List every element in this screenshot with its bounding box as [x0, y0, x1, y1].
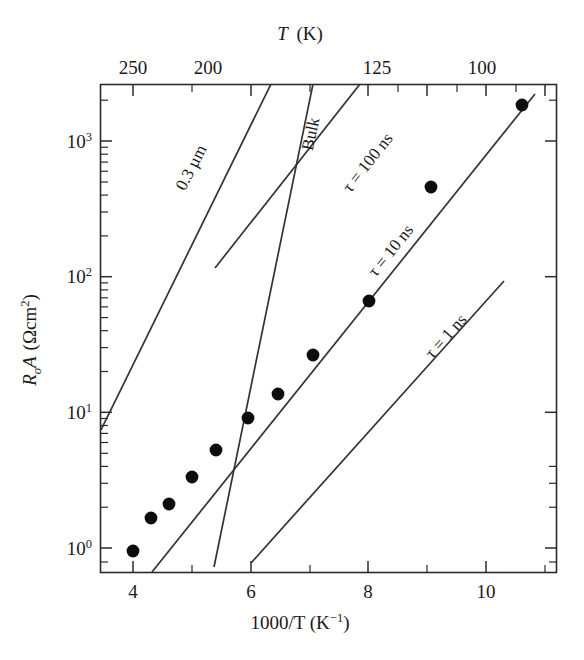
y-axis-major-ticks	[101, 141, 113, 548]
data-point	[145, 512, 158, 525]
svg-text:1000/T (K−1): 1000/T (K−1)	[251, 611, 350, 634]
right-axis-ticks	[545, 100, 557, 562]
x-axis-title-superscript: −1	[330, 611, 343, 625]
y-axis-minor-ticks	[101, 100, 109, 562]
y-tick-label-1e0: 100	[67, 537, 92, 559]
y-axis-title-a: A	[19, 356, 40, 370]
data-point	[425, 181, 438, 194]
y-axis-title-unit-close: )	[19, 294, 41, 300]
x-tick-label-4: 4	[128, 581, 138, 602]
data-point	[307, 349, 320, 362]
top-axis-ticks	[133, 85, 545, 97]
chart-svg: 250 200 125 100 T (K) 4 6 8 10 1000/T (K…	[0, 0, 584, 660]
data-point	[186, 471, 199, 484]
top-axis-ticklabels: 250 200 125 100	[119, 57, 497, 78]
data-point	[163, 498, 176, 511]
curve-labels: 0.3 µm Bulk τ = 100 ns τ = 10 ns τ = 1 n…	[172, 115, 471, 362]
curve-label-tau-100ns: τ = 100 ns	[339, 129, 397, 196]
y-tick-label-1e3: 103	[67, 130, 92, 152]
line-0-3-um	[101, 84, 271, 430]
y-axis-title-unit-open: (Ωcm	[19, 307, 41, 351]
top-tick-label-100: 100	[468, 57, 497, 78]
line-bulk	[214, 84, 313, 567]
x-tick-label-10: 10	[477, 581, 496, 602]
top-tick-label-200: 200	[194, 57, 223, 78]
data-point	[210, 444, 223, 457]
figure-container: 250 200 125 100 T (K) 4 6 8 10 1000/T (K…	[0, 0, 584, 660]
curve-label-0-3-um: 0.3 µm	[172, 142, 211, 194]
curve-label-tau-1ns: τ = 1 ns	[421, 310, 470, 362]
curve-label-bulk: Bulk	[298, 115, 324, 152]
y-axis-ticklabels: 100 101 102 103	[67, 130, 92, 559]
data-point	[242, 412, 255, 425]
x-axis-title-main: 1000/T (K	[251, 612, 331, 634]
x-axis-title-close: )	[343, 612, 349, 634]
svg-text:T (K): T (K)	[277, 23, 323, 45]
x-tick-label-6: 6	[246, 581, 256, 602]
y-axis-title-r: R	[19, 374, 40, 387]
data-point	[127, 545, 140, 558]
top-axis-title-unit: (K)	[296, 23, 322, 45]
bottom-axis-ticks	[133, 561, 545, 573]
y-tick-label-1e1: 101	[67, 401, 92, 423]
line-tau-100ns	[215, 84, 360, 268]
data-point	[516, 99, 529, 112]
x-tick-label-8: 8	[363, 581, 373, 602]
bottom-axis-ticklabels: 4 6 8 10	[128, 581, 495, 602]
x-axis-title: 1000/T (K−1)	[251, 611, 350, 634]
svg-text:RoA(Ωcm2): RoA(Ωcm2)	[18, 294, 44, 387]
data-point	[272, 388, 285, 401]
y-tick-label-1e2: 102	[67, 265, 92, 287]
y-axis-title: RoA(Ωcm2)	[18, 294, 44, 387]
data-point	[363, 295, 376, 308]
top-axis-title-variable: T	[277, 23, 289, 44]
top-tick-label-250: 250	[119, 57, 148, 78]
line-tau-10ns	[152, 94, 535, 572]
top-tick-label-125: 125	[363, 57, 392, 78]
top-axis-title: T (K)	[277, 23, 323, 45]
